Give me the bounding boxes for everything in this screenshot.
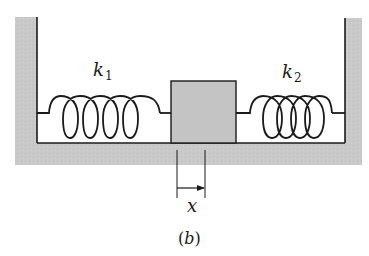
spring-right bbox=[236, 96, 345, 138]
left-wall bbox=[15, 17, 37, 165]
spring-left-label: k1 bbox=[93, 59, 113, 83]
figure-caption: (b) bbox=[178, 229, 201, 248]
spring-right-label: k2 bbox=[282, 61, 302, 85]
spring-left bbox=[37, 96, 171, 138]
displacement-label: x bbox=[187, 195, 197, 216]
spring-mass-diagram: k1 k2 x (b) bbox=[0, 0, 369, 256]
right-wall bbox=[345, 18, 362, 165]
floor bbox=[15, 143, 362, 165]
mass-block bbox=[171, 81, 236, 143]
